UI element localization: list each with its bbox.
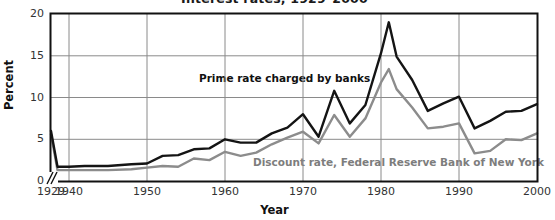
x-tick-label: 1990 [439,185,479,198]
series-line-discount-rate [51,69,537,170]
series-paths [51,22,537,170]
x-tick-label: 1980 [361,185,401,198]
gridlines [51,14,537,181]
y-tick-label: 5 [18,132,44,145]
y-tick-label: 15 [18,49,44,62]
x-tick-label: 1940 [49,185,89,198]
series-line-prime-rate [51,22,537,167]
y-tick-label: 10 [18,91,44,104]
y-tick-label: 20 [18,7,44,20]
x-tick-label: 1970 [283,185,323,198]
x-tick-label: 2000 [517,185,555,198]
x-tick-label: 1950 [127,185,167,198]
axis-break-icon [44,172,58,184]
x-tick-label: 1960 [205,185,245,198]
